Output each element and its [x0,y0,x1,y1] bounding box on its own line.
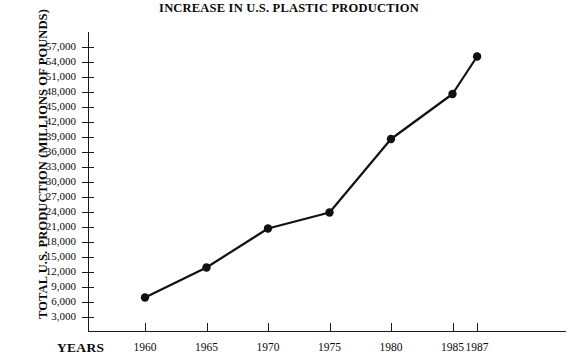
data-point-marker [202,263,210,271]
data-point-marker [141,293,149,301]
data-point-marker [325,208,333,216]
data-point-marker [387,135,395,143]
series-line [145,57,477,298]
series-plot-area [0,0,574,360]
data-point-marker [264,224,272,232]
line-chart: INCREASE IN U.S. PLASTIC PRODUCTION TOTA… [0,0,574,360]
data-point-marker [448,90,456,98]
data-point-marker [473,52,481,60]
